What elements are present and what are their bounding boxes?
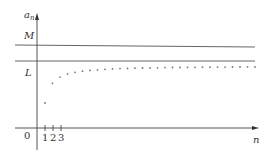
sequence-point (224, 66, 226, 68)
sequence-point (157, 67, 159, 69)
sequence-point (232, 66, 234, 68)
sequence-point (202, 66, 204, 68)
y-axis-arrow-icon (35, 13, 39, 20)
sequence-points (44, 66, 256, 104)
sequence-point (119, 68, 121, 70)
upper-bound-label-m: M (23, 30, 35, 41)
tick-label-2: 2 (50, 132, 56, 143)
sequence-point (67, 73, 69, 75)
sequence-point (164, 67, 166, 69)
sequence-point (247, 66, 249, 68)
sequence-point (179, 67, 181, 69)
x-axis-label: n (253, 134, 259, 145)
limit-label-l: L (24, 67, 32, 78)
sequence-point (59, 76, 61, 78)
tick-label-1: 1 (42, 132, 48, 143)
sequence-point (52, 82, 54, 84)
sequence-point (112, 68, 114, 70)
sequence-point (172, 67, 174, 69)
sequence-point (134, 67, 136, 69)
sequence-diagram: an M L 0 1 2 3 n (0, 0, 273, 153)
sequence-point (254, 66, 256, 68)
sequence-point (217, 66, 219, 68)
origin-label: 0 (24, 130, 30, 141)
sequence-point (142, 67, 144, 69)
sequence-point (187, 67, 189, 69)
y-axis-label: an (24, 9, 35, 22)
sequence-point (82, 70, 84, 72)
sequence-point (44, 102, 46, 104)
sequence-point (89, 70, 91, 72)
upper-bound-line-m (15, 45, 255, 47)
sequence-point (194, 66, 196, 68)
sequence-point (239, 66, 241, 68)
sequence-point (104, 68, 106, 70)
sequence-point (74, 71, 76, 73)
sequence-point (127, 68, 129, 70)
sequence-point (149, 67, 151, 69)
tick-label-3: 3 (58, 132, 64, 143)
sequence-point (209, 66, 211, 68)
sequence-point (97, 69, 99, 71)
x-axis-arrow-icon (252, 126, 259, 130)
